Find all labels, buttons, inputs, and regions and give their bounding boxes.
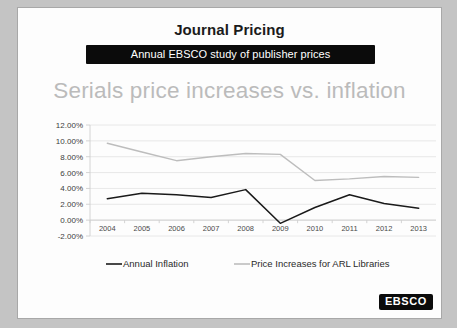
x-axis-tick-label: 2012 [376, 224, 393, 233]
slide-frame: Journal Pricing Annual EBSCO study of pu… [0, 0, 457, 328]
headline-text: Serials price increases vs. inflation [18, 78, 441, 104]
page-title: Journal Pricing [18, 21, 441, 38]
y-axis-tick-label: 8.00% [60, 153, 83, 162]
y-axis-tick-label: 10.00% [56, 137, 83, 146]
chart-axes [90, 125, 436, 236]
y-axis-tick-label: 6.00% [60, 169, 83, 178]
y-axis-tick-label: -2.00% [58, 232, 83, 241]
chart-gridlines [90, 125, 436, 236]
legend-label: Price Increases for ARL Libraries [251, 258, 390, 269]
line-chart: 12.00%10.00%8.00%6.00%4.00%2.00%0.00%-2.… [18, 109, 442, 299]
ebsco-logo: EBSCO [379, 294, 433, 310]
x-axis-tick-label: 2013 [410, 224, 427, 233]
y-axis-tick-label: 12.00% [56, 121, 83, 130]
subtitle-banner: Annual EBSCO study of publisher prices [86, 45, 375, 64]
chart-legend: Annual InflationPrice Increases for ARL … [106, 258, 390, 269]
subtitle-label: Annual EBSCO study of publisher prices [86, 45, 375, 64]
x-axis-tick-label: 2004 [99, 224, 116, 233]
series-line [107, 143, 418, 180]
series-line [107, 190, 418, 224]
y-axis-tick-label: 2.00% [60, 200, 83, 209]
x-axis-tick-label: 2005 [134, 224, 151, 233]
x-axis-tick-label: 2010 [307, 224, 324, 233]
y-axis-tick-labels: 12.00%10.00%8.00%6.00%4.00%2.00%0.00%-2.… [56, 121, 90, 241]
x-axis-tick-label: 2008 [237, 224, 254, 233]
legend-label: Annual Inflation [123, 258, 189, 269]
x-axis-tick-labels: 2004200520062007200820092010201120122013 [90, 220, 427, 233]
x-axis-tick-label: 2011 [341, 224, 357, 233]
y-axis-tick-label: 4.00% [60, 184, 83, 193]
chart-series [107, 143, 418, 223]
y-axis-tick-label: 0.00% [60, 216, 83, 225]
x-axis-tick-label: 2006 [168, 224, 185, 233]
chart-svg: 12.00%10.00%8.00%6.00%4.00%2.00%0.00%-2.… [18, 109, 442, 299]
presentation-slide: Journal Pricing Annual EBSCO study of pu… [17, 7, 442, 319]
x-axis-tick-label: 2007 [203, 224, 220, 233]
x-axis-tick-label: 2009 [272, 224, 289, 233]
